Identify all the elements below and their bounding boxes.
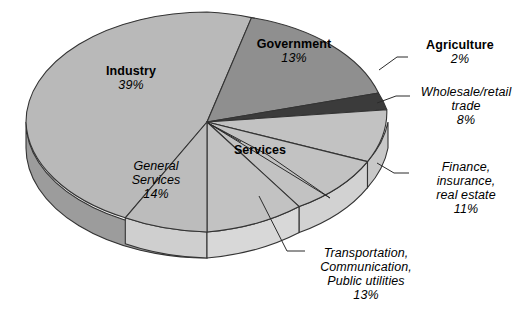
slice-label-general-pct: 14% <box>110 187 202 201</box>
slice-label-wholesale-line2: trade <box>406 99 526 113</box>
slice-label-industry-pct: 39% <box>78 78 184 92</box>
slice-label-general-services: General Services 14% <box>110 159 202 201</box>
slice-label-government-pct: 13% <box>238 51 350 65</box>
group-label-services-name: Services <box>212 143 308 157</box>
slice-label-wholesale-line1: Wholesale/retail <box>406 85 526 99</box>
slice-label-finance-line3: real estate <box>406 188 526 202</box>
slice-label-transport-line3: Public utilities <box>300 274 432 288</box>
slice-label-general-line2: Services <box>110 173 202 187</box>
pie-chart-figure: Industry 39% Government 13% Agriculture … <box>0 0 532 322</box>
slice-label-finance-line2: insurance, <box>406 174 526 188</box>
slice-label-agriculture-name: Agriculture <box>404 38 516 52</box>
group-label-services: Services <box>212 143 308 157</box>
slice-label-industry-name: Industry <box>78 64 184 78</box>
slice-label-wholesale-retail-trade: Wholesale/retail trade 8% <box>406 85 526 127</box>
slice-label-transport-line2: Communication, <box>300 260 432 274</box>
slice-label-agriculture: Agriculture 2% <box>404 38 516 66</box>
slice-label-finance-line1: Finance, <box>406 160 526 174</box>
slice-label-government-name: Government <box>238 37 350 51</box>
slice-label-industry: Industry 39% <box>78 64 184 92</box>
slice-label-finance-insurance-real-estate: Finance, insurance, real estate 11% <box>406 160 526 216</box>
slice-label-transport-line1: Transportation, <box>300 246 432 260</box>
slice-label-general-line1: General <box>110 159 202 173</box>
slice-label-transportation-communication-public-utilities: Transportation, Communication, Public ut… <box>300 246 432 302</box>
slice-label-wholesale-pct: 8% <box>406 113 526 127</box>
slice-label-finance-pct: 11% <box>406 202 526 216</box>
slice-label-government: Government 13% <box>238 37 350 65</box>
slice-label-transport-pct: 13% <box>300 288 432 302</box>
slice-label-agriculture-pct: 2% <box>404 52 516 66</box>
